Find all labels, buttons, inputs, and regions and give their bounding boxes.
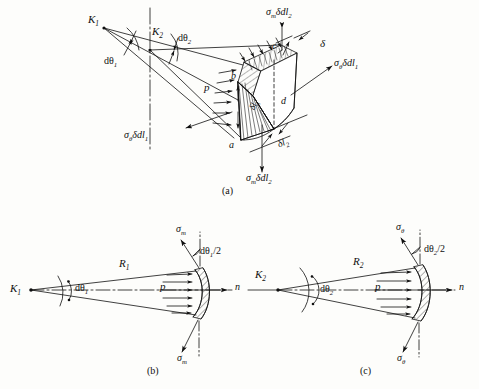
label-sigma-theta-dl1-left-a: σθδdl1: [124, 130, 148, 143]
vertex-dot-k2: [148, 48, 151, 51]
label-pressure-c: p: [375, 281, 381, 292]
label-axis-n-c: n: [459, 282, 464, 292]
label-vertex-c: c: [272, 41, 276, 51]
label-sigma-theta-bottom-c: σθ: [397, 353, 405, 366]
cone-c-upper: [278, 268, 415, 290]
wedge-c-a: [412, 247, 420, 254]
ray-k1-lower: [104, 28, 234, 138]
label-dtheta1-a: dθ1: [104, 56, 117, 69]
panel-a-geometry: [102, 8, 332, 172]
label-sigma-m-top-b: σm: [176, 224, 186, 237]
thickness-tick-left: [276, 36, 292, 43]
arc-dot-c-bottom: [312, 303, 315, 306]
label-dtheta2-a: dθ2: [178, 33, 191, 46]
label-thickness-delta-a: δ: [320, 38, 325, 49]
label-sigma-m-bottom-b: σm: [177, 353, 187, 366]
label-k1-b: K1: [10, 283, 21, 297]
cone-b-lower: [31, 290, 196, 315]
vertex-dot-b: [29, 288, 32, 291]
caption-a: (a): [222, 186, 233, 196]
arc-dot-c-top: [311, 275, 314, 278]
figure-shell-membrane-stress: K1 K2 dθ1 dθ2 p δ σmδdl2 σmδdl2 σθδdl1 σ…: [0, 0, 479, 389]
ray-k1-upper: [104, 28, 243, 65]
label-dtheta2-c: dθ2: [320, 284, 333, 297]
dtheta2-arrow-up: [169, 51, 174, 64]
pressure-arrows-c: [375, 272, 411, 314]
label-pressure-b: p: [160, 281, 166, 292]
vertex-dot-c: [276, 288, 279, 291]
arc-dot-b-bottom: [68, 299, 71, 302]
caption-b: (b): [147, 366, 159, 376]
thickness-tick-right: [294, 31, 310, 38]
label-k2-c: K2: [255, 269, 266, 283]
cone-b-upper: [31, 271, 196, 290]
vertex-dot-k1: [102, 26, 105, 29]
label-axis-n-b: n: [235, 282, 240, 292]
figure-vector-canvas: [0, 0, 479, 389]
label-sigma-m-dl2-bottom-a: σmδdl2: [246, 173, 272, 186]
label-dtheta1-b: dθ1: [75, 283, 88, 296]
caption-c: (c): [360, 366, 371, 376]
label-half-dtheta2-c: dθ2/2: [424, 244, 445, 257]
arrow-sigma-theta-c-bottom: [403, 322, 418, 352]
label-radius-c: R2: [353, 256, 363, 270]
label-pressure-a: p: [204, 82, 210, 93]
label-vertex-b: b: [231, 71, 236, 81]
label-k1-a: K1: [88, 14, 99, 28]
ray-k1-middle: [104, 28, 238, 100]
label-sigma-m-dl2-top-a: σmδdl2: [266, 7, 292, 20]
label-vertex-a: a: [229, 140, 234, 150]
arrow-sigma-theta-left: [186, 112, 232, 128]
label-k2-a: K2: [152, 26, 163, 40]
label-vertex-d: d: [281, 96, 286, 106]
label-sigma-theta-dl1-right-a: σθδdl1: [334, 58, 358, 71]
arc-b-dtheta-1: [58, 276, 63, 306]
arrow-sigma-theta-right: [291, 66, 332, 95]
arrow-sigma-m-b-bottom: [182, 320, 198, 352]
label-sigma-theta-top-c: σθ: [396, 222, 404, 235]
arc-b-dtheta-2: [68, 281, 72, 300]
label-half-dtheta1-b: dθ1/2: [200, 246, 221, 259]
wedge-b-a: [193, 249, 200, 256]
label-radius-b: R1: [119, 258, 129, 272]
arc-dot-b-top: [67, 280, 70, 283]
